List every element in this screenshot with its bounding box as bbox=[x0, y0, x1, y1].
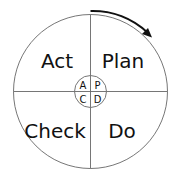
pdca-diagram: Act Plan Check Do A P C D bbox=[0, 0, 175, 178]
cycle-arrow-icon bbox=[91, 11, 149, 33]
quadrant-plan: Plan bbox=[102, 49, 145, 73]
center-a: A bbox=[80, 80, 87, 91]
quadrant-check: Check bbox=[24, 119, 86, 143]
center-p: P bbox=[94, 80, 100, 91]
center-c: C bbox=[80, 94, 87, 105]
quadrant-act: Act bbox=[41, 49, 73, 73]
center-d: D bbox=[94, 94, 102, 105]
quadrant-do: Do bbox=[108, 119, 136, 143]
